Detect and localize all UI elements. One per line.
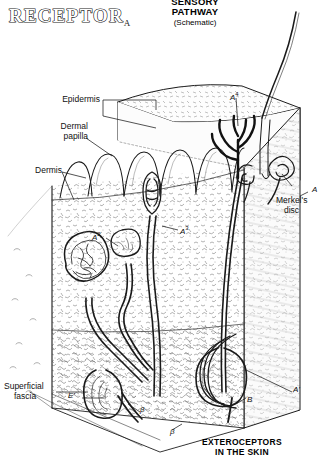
title-subscript: A bbox=[124, 18, 131, 28]
label-dermis: Dermis bbox=[8, 166, 62, 176]
annotation-e-prime: E' bbox=[68, 392, 75, 400]
annotation-beta-bottom: β bbox=[170, 428, 175, 436]
header-pathway: PATHWAY bbox=[150, 7, 240, 17]
annotation-a4-sup: 4 bbox=[235, 91, 238, 97]
caption-line1: EXTEROCEPTORS bbox=[172, 437, 312, 447]
label-merkels-disc-line2: disc bbox=[284, 206, 324, 216]
caption-line2: IN THE SKIN bbox=[172, 447, 312, 457]
annotation-a-right: A bbox=[312, 186, 317, 194]
annotation-b: B bbox=[247, 396, 252, 404]
label-merkels-disc-line1: Merkel's bbox=[276, 196, 322, 206]
annotation-a3-sup: 3 bbox=[185, 225, 188, 231]
title-receptor: RECEPTOR bbox=[9, 5, 124, 26]
page-title: RECEPTORA bbox=[9, 6, 130, 28]
annotation-a-prime: A' bbox=[293, 386, 300, 394]
annotation-a3: A3 bbox=[180, 224, 189, 236]
figure-canvas: RECEPTORA SENSORY PATHWAY (Schematic) Ep… bbox=[0, 0, 324, 464]
annotation-a4: A4 bbox=[230, 90, 239, 102]
annotation-a2-sup: 2 bbox=[97, 231, 100, 237]
label-dermal-papilla-line2: papilla bbox=[18, 132, 88, 142]
header-schematic: (Schematic) bbox=[150, 18, 240, 27]
annotation-a2: A2 bbox=[92, 230, 101, 242]
annotation-beta-left: β bbox=[140, 406, 145, 414]
label-superficial-fascia-line2: fascia bbox=[14, 392, 66, 402]
label-epidermis: Epidermis bbox=[28, 95, 100, 105]
